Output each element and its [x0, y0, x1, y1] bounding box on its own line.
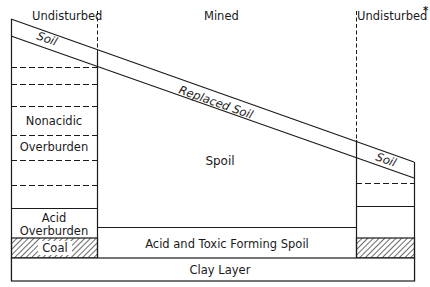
right-coal-seam [357, 238, 415, 258]
label-acid-toxic-spoil: Acid and Toxic Forming Spoil [145, 237, 309, 251]
zone-label-mined: Mined [204, 9, 239, 23]
label-clay-layer: Clay Layer [190, 263, 251, 277]
label-replaced-soil: Replaced Soil [177, 83, 256, 122]
label-nonacidic-overburden: Overburden [20, 140, 88, 154]
footnote-asterisk: * [423, 5, 429, 16]
zone-label-left-undisturbed: Undisturbed [32, 9, 102, 23]
label-nonacidic: Nonacidic [26, 114, 82, 128]
label-acid: Acid [42, 211, 66, 225]
label-acid-overburden: Overburden [20, 224, 88, 238]
label-coal: Coal [42, 241, 67, 255]
label-spoil: Spoil [205, 154, 234, 168]
label-soil-right: Soil [374, 150, 399, 170]
mine-cross-section-diagram: Undisturbed Mined Undisturbed * Soil Rep… [0, 0, 430, 287]
zone-label-right-undisturbed: Undisturbed [357, 9, 427, 23]
